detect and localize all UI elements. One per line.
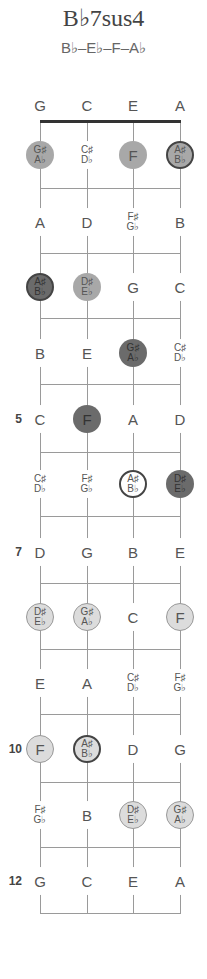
note-cell: B (73, 801, 101, 829)
note-label: G (34, 874, 46, 889)
note-cell: F♯G♭ (119, 208, 147, 236)
note-marker: D♯E♭ (119, 801, 147, 829)
note-label: E (35, 676, 45, 691)
fretboard-diagram: GCEAG♯A♭C♯D♭FA♯B♭ADF♯G♭BA♯B♭D♯E♭GCBEG♯A♭… (0, 0, 207, 979)
note-cell: G (26, 867, 54, 895)
fret-line (40, 583, 181, 584)
note-cell: A (166, 867, 194, 895)
note-cell: C (26, 405, 54, 433)
note-label: G♯A♭ (81, 607, 94, 627)
note-cell: E (166, 538, 194, 566)
note-label: D (82, 215, 93, 230)
note-label: C (82, 874, 93, 889)
note-cell: F♯G♭ (26, 801, 54, 829)
fret-number: 7 (2, 545, 22, 559)
note-label: C♯D♭ (127, 673, 139, 693)
note-marker: A♯B♭ (73, 735, 101, 763)
note-cell: E (119, 91, 147, 119)
note-label: C♯D♭ (81, 145, 93, 165)
note-marker: G♯A♭ (166, 801, 194, 829)
note-cell: E (73, 339, 101, 367)
note-label: A♯B♭ (127, 474, 139, 494)
note-label: G♯A♭ (174, 805, 187, 825)
fret-line (40, 452, 181, 453)
note-label: G (34, 98, 46, 113)
note-cell: C♯D♭ (119, 669, 147, 697)
note-cell: E (119, 867, 147, 895)
note-cell: G (166, 735, 194, 763)
note-label: E (82, 346, 92, 361)
note-label: F♯G♭ (34, 805, 47, 825)
note-label: D♯E♭ (174, 474, 186, 494)
note-label: G♯A♭ (127, 343, 140, 363)
nut (40, 120, 181, 123)
note-cell: C (119, 603, 147, 631)
note-label: C (128, 610, 139, 625)
note-label: A♯B♭ (174, 145, 186, 165)
fret-line (40, 384, 181, 385)
note-label: F♯G♭ (81, 474, 94, 494)
note-label: D♯E♭ (127, 805, 139, 825)
note-cell: C (166, 273, 194, 301)
note-cell: A (119, 405, 147, 433)
note-cell: C (73, 867, 101, 895)
note-label: B (82, 808, 92, 823)
note-cell: F♯G♭ (73, 470, 101, 498)
note-label: F (82, 412, 91, 427)
string-line (180, 121, 181, 913)
note-marker: A♯B♭ (26, 273, 54, 301)
note-label: D (128, 742, 139, 757)
note-label: D♯E♭ (81, 277, 93, 297)
note-marker: D♯E♭ (73, 273, 101, 301)
note-label: F♯G♭ (174, 673, 187, 693)
fret-line (40, 847, 181, 848)
note-cell: C♯D♭ (73, 141, 101, 169)
note-marker: F (119, 141, 147, 169)
note-cell: G (73, 538, 101, 566)
fret-line (40, 714, 181, 715)
note-label: E (128, 98, 138, 113)
note-cell: B (26, 339, 54, 367)
note-marker: D♯E♭ (166, 470, 194, 498)
note-marker: G♯A♭ (26, 141, 54, 169)
string-line (40, 121, 41, 913)
note-label: A (82, 676, 92, 691)
note-cell: C (73, 91, 101, 119)
note-cell: D (73, 208, 101, 236)
note-cell: G (119, 273, 147, 301)
note-label: B (175, 215, 185, 230)
string-line (87, 121, 88, 913)
note-cell: B (119, 538, 147, 566)
note-cell: D (26, 538, 54, 566)
string-line (133, 121, 134, 913)
note-cell: F♯G♭ (166, 669, 194, 697)
note-label: B (35, 346, 45, 361)
note-label: E (175, 545, 185, 560)
note-cell: A (26, 208, 54, 236)
note-cell: G (26, 91, 54, 119)
note-label: G♯A♭ (34, 145, 47, 165)
note-label: F (128, 148, 137, 163)
fret-number: 10 (2, 742, 22, 756)
note-marker: F (73, 405, 101, 433)
note-label: G (174, 742, 186, 757)
note-cell: D (166, 405, 194, 433)
note-label: C♯D♭ (174, 343, 186, 363)
note-label: A♯B♭ (81, 739, 93, 759)
note-label: C (82, 98, 93, 113)
note-cell: A (73, 669, 101, 697)
fret-line (40, 782, 181, 783)
note-marker: F (26, 735, 54, 763)
note-label: E (128, 874, 138, 889)
note-label: F (175, 610, 184, 625)
note-label: A (175, 874, 185, 889)
fret-number: 12 (2, 874, 22, 888)
note-cell: C♯D♭ (166, 339, 194, 367)
fret-line (40, 188, 181, 189)
note-label: F♯G♭ (127, 212, 140, 232)
note-cell: A (166, 91, 194, 119)
note-marker: A♯B♭ (119, 470, 147, 498)
note-cell: B (166, 208, 194, 236)
fret-number: 5 (2, 412, 22, 426)
note-label: D (35, 545, 46, 560)
